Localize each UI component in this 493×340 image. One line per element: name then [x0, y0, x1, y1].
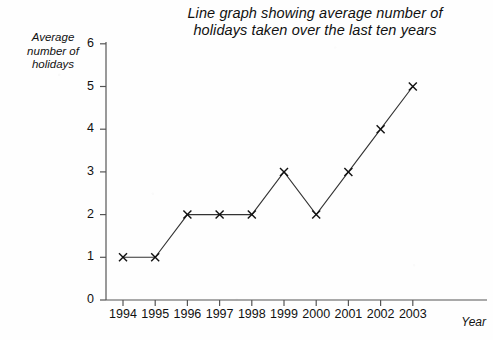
- y-axis-tick-label: 6: [78, 36, 94, 50]
- x-axis-tick-label: 2003: [396, 307, 430, 321]
- y-axis-tick-label: 1: [78, 249, 94, 263]
- x-axis-ticks: [123, 300, 413, 306]
- y-axis-tick-label: 0: [78, 292, 94, 306]
- data-point-markers: [119, 83, 417, 262]
- x-axis-tick-label: 1996: [170, 307, 204, 321]
- x-axis-tick-label: 2002: [364, 307, 398, 321]
- data-series-line: [123, 87, 413, 258]
- x-axis-tick-label: 1999: [267, 307, 301, 321]
- y-axis-tick-label: 3: [78, 164, 94, 178]
- x-axis-tick-label: 1994: [106, 307, 140, 321]
- y-axis-tick-label: 2: [78, 207, 94, 221]
- data-point-marker: [409, 83, 417, 91]
- x-axis-tick-label: 2000: [299, 307, 333, 321]
- y-axis-tick-label: 5: [78, 79, 94, 93]
- axes: [106, 42, 487, 300]
- data-point-marker: [377, 125, 385, 133]
- plot-area: [0, 0, 493, 340]
- x-axis-tick-label: 2001: [331, 307, 365, 321]
- x-axis-tick-label: 1995: [138, 307, 172, 321]
- data-point-marker: [344, 168, 352, 176]
- data-point-marker: [280, 168, 288, 176]
- x-axis-tick-label: 1997: [203, 307, 237, 321]
- x-axis-tick-label: 1998: [235, 307, 269, 321]
- y-axis-ticks: [100, 44, 106, 300]
- data-point-marker: [312, 211, 320, 219]
- y-axis-tick-label: 4: [78, 121, 94, 135]
- line-chart-figure: Line graph showing average number of hol…: [0, 0, 493, 340]
